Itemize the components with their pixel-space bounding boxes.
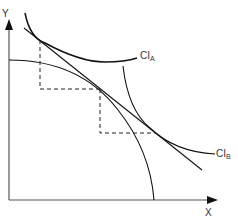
x-axis-label: X	[205, 207, 212, 218]
ci-a-label: CIA	[140, 50, 155, 62]
tangent-line	[24, 28, 202, 170]
x-axis-arrow-icon	[207, 196, 218, 204]
ppf-curve	[9, 60, 154, 200]
ci-b-curve	[123, 66, 215, 154]
ci-b-label: CIB	[216, 148, 231, 160]
y-axis-label: Y	[2, 8, 9, 19]
ci-a-curve	[25, 13, 137, 62]
diagram-canvas: Y X CIA CIB	[0, 0, 238, 219]
y-axis-arrow-icon	[5, 19, 13, 30]
